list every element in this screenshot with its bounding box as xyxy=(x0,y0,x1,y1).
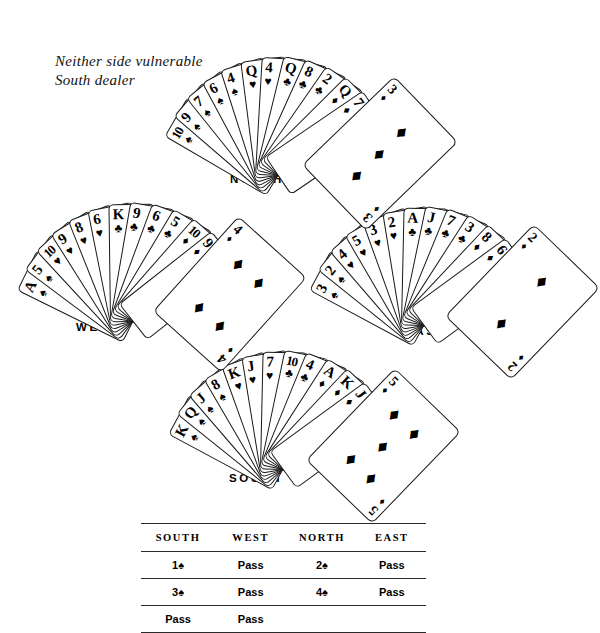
bidding-table: SOUTHWESTNORTHEAST 1♠Pass2♠Pass3♠Pass4♠P… xyxy=(141,523,426,633)
card-suit-diamond-icon: ♦ xyxy=(225,345,235,356)
bidding-cell: Pass xyxy=(215,606,286,633)
card-suit-diamond-icon: ♦ xyxy=(210,314,232,337)
card-suit-diamond-icon: ♦ xyxy=(516,352,527,363)
card-suit-spade-icon: ♠ xyxy=(195,415,208,427)
bid-suit-spade-icon: ♠ xyxy=(178,586,184,598)
card-suit-club-icon: ♣ xyxy=(129,220,139,233)
bidding-column-header: NORTH xyxy=(286,524,357,552)
card-suit-diamond-icon: ♦ xyxy=(378,93,389,104)
card-suit-diamond-icon: ♦ xyxy=(224,233,234,244)
card-suit-spade-icon: ♠ xyxy=(42,272,55,284)
card-suit-diamond-icon: ♦ xyxy=(316,377,328,390)
bidding-column-header: WEST xyxy=(215,524,286,552)
card-suit-club-icon: ♣ xyxy=(299,370,311,384)
card-suit-club-icon: ♣ xyxy=(146,222,158,236)
bidding-cell: Pass xyxy=(358,552,426,579)
card-suit-diamond-icon: ♦ xyxy=(369,142,392,164)
card-suit-club-icon: ♣ xyxy=(423,224,433,237)
card-suit-club-icon: ♣ xyxy=(313,83,326,97)
bidding-cell: 4♠ xyxy=(286,579,357,606)
bid-text: Pass xyxy=(238,613,264,625)
card-suit-diamond-icon: ♦ xyxy=(372,435,394,458)
card-suit-heart-icon: ♥ xyxy=(233,379,244,393)
bidding-cell: Pass xyxy=(215,579,286,606)
card-rank: K xyxy=(112,207,123,222)
card-suit-heart-icon: ♥ xyxy=(248,373,257,386)
card-suit-club-icon: ♣ xyxy=(114,222,122,234)
bid-suit-spade-icon: ♠ xyxy=(322,586,328,598)
bid-text: Pass xyxy=(379,559,405,571)
card-suit-spade-icon: ♠ xyxy=(214,94,225,108)
bidding-row: PassPass xyxy=(141,606,426,633)
card-suit-diamond-icon: ♦ xyxy=(391,121,414,143)
vulnerability-note: Neither side vulnerable South dealer xyxy=(55,52,203,90)
card-suit-diamond-icon: ♦ xyxy=(404,422,426,445)
card-rank: 7 xyxy=(266,355,273,370)
bidding-row: 3♠Pass4♠Pass xyxy=(141,579,426,606)
card-suit-diamond-icon: ♦ xyxy=(341,447,363,470)
card-suit-spade-icon: ♠ xyxy=(216,390,228,404)
card-suit-heart-icon: ♥ xyxy=(64,244,76,258)
bid-text: Pass xyxy=(238,559,264,571)
card-suit-spade-icon: ♠ xyxy=(187,432,201,443)
card-suit-spade-icon: ♠ xyxy=(327,290,341,301)
bidding-cell xyxy=(286,606,357,633)
card-suit-club-icon: ♣ xyxy=(282,75,293,89)
card-suit-club-icon: ♣ xyxy=(456,232,469,246)
card-suit-heart-icon: ♥ xyxy=(357,246,369,260)
bidding-cell: Pass xyxy=(358,579,426,606)
card-suit-diamond-icon: ♦ xyxy=(228,253,250,276)
card-suit-diamond-icon: ♦ xyxy=(347,164,370,186)
card-suit-heart-icon: ♥ xyxy=(249,78,258,91)
bidding-cell: 3♠ xyxy=(141,579,215,606)
bidding-column-header: EAST xyxy=(358,524,426,552)
card-suit-heart-icon: ♥ xyxy=(95,226,104,239)
card-suit-diamond-icon: ♦ xyxy=(377,496,388,507)
card-suit-diamond-icon: ♦ xyxy=(340,104,353,116)
bidding-cell: 1♠ xyxy=(141,552,215,579)
bid-suit-spade-icon: ♠ xyxy=(322,559,328,571)
bidding-cell: Pass xyxy=(141,606,215,633)
card-suit-heart-icon: ♥ xyxy=(78,234,89,248)
bidding-header-row: SOUTHWESTNORTHEAST xyxy=(141,524,426,552)
card-suit-heart-icon: ♥ xyxy=(372,236,383,250)
card-rank: A xyxy=(407,211,418,226)
card-suit-heart-icon: ♥ xyxy=(266,370,273,382)
card-suit-diamond-icon: ♦ xyxy=(471,240,484,253)
bid-text: Pass xyxy=(379,586,405,598)
card-suit-spade-icon: ♠ xyxy=(201,106,213,119)
bid-text: Pass xyxy=(165,613,191,625)
card-suit-diamond-icon: ♦ xyxy=(361,466,383,489)
bidding-cell: 2♠ xyxy=(286,552,357,579)
card-suit-club-icon: ♣ xyxy=(297,77,309,91)
bid-text: Pass xyxy=(238,586,264,598)
card-suit-heart-icon: ♥ xyxy=(264,75,272,87)
card-suit-spade-icon: ♠ xyxy=(230,85,240,98)
card-suit-heart-icon: ♥ xyxy=(389,229,398,242)
card-suit-spade-icon: ♠ xyxy=(181,134,195,146)
card-suit-club-icon: ♣ xyxy=(408,226,416,238)
card-suit-diamond-icon: ♦ xyxy=(180,234,193,247)
card-suit-diamond-icon: ♦ xyxy=(519,241,530,252)
card-suit-heart-icon: ♥ xyxy=(344,258,357,272)
card-suit-diamond-icon: ♦ xyxy=(531,270,553,293)
bidding-cell xyxy=(358,606,426,633)
card-suit-spade-icon: ♠ xyxy=(190,120,203,133)
card-suit-diamond-icon: ♦ xyxy=(384,403,406,426)
card-suit-spade-icon: ♠ xyxy=(334,273,347,285)
bidding-row: 1♠Pass2♠Pass xyxy=(141,552,426,579)
card-suit-spade-icon: ♠ xyxy=(204,402,217,415)
bidding-cell: Pass xyxy=(215,552,286,579)
card-suit-heart-icon: ♥ xyxy=(51,254,64,268)
card-suit-club-icon: ♣ xyxy=(440,226,452,240)
card-suit-diamond-icon: ♦ xyxy=(491,311,513,334)
bidding-column-header: SOUTH xyxy=(141,524,215,552)
card-suit-diamond-icon: ♦ xyxy=(343,396,356,408)
card-suit-club-icon: ♣ xyxy=(162,226,175,240)
card-suit-diamond-icon: ♦ xyxy=(189,295,211,318)
card-suit-diamond-icon: ♦ xyxy=(248,271,270,294)
card-suit-spade-icon: ♠ xyxy=(36,287,50,298)
card-suit-diamond-icon: ♦ xyxy=(371,204,382,215)
card-suit-club-icon: ♣ xyxy=(284,367,294,380)
